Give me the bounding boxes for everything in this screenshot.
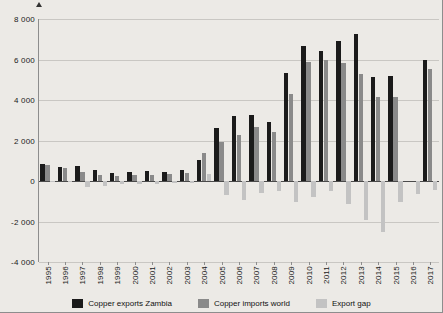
x-axis-tickmark (222, 262, 223, 265)
bar-export-gap (155, 181, 159, 184)
x-axis-tick-label: 2008 (270, 266, 279, 285)
bar-group (56, 19, 73, 262)
bar-copper-imports-world (115, 176, 119, 181)
bar-copper-exports-zambia (58, 167, 62, 181)
bar-group (230, 19, 247, 262)
x-axis-tick-label: 2005 (218, 266, 227, 285)
bar-copper-exports-zambia (162, 172, 166, 181)
bar-copper-exports-zambia (354, 34, 358, 181)
bar-copper-imports-world (376, 97, 380, 181)
x-axis-tickmark (82, 262, 83, 265)
bar-group (161, 19, 178, 262)
bar-group (196, 19, 213, 262)
bar-copper-exports-zambia (145, 171, 149, 181)
x-axis-tickmark (378, 262, 379, 265)
bar-export-gap (137, 181, 141, 184)
y-axis-tick-label: 8 000 (14, 15, 35, 24)
legend-swatch-icon (198, 299, 209, 308)
x-axis-tick-label: 2009 (287, 266, 296, 285)
x-axis-tick-label: 1998 (96, 266, 105, 285)
x-axis-tick-label: 2003 (183, 266, 192, 285)
bar-group (91, 19, 108, 262)
bar-export-gap (242, 181, 246, 200)
x-axis-tick-label: 2007 (252, 266, 261, 285)
legend-swatch-icon (72, 299, 83, 308)
legend-label: Copper imports world (214, 299, 290, 308)
bar-group (422, 19, 439, 262)
bar-copper-imports-world (80, 172, 84, 181)
bar-export-gap (259, 181, 263, 193)
legend-item[interactable]: Copper imports world (198, 299, 290, 308)
x-axis-tick-label: 2013 (357, 266, 366, 285)
bar-export-gap (346, 181, 350, 204)
x-axis-tickmark (152, 262, 153, 265)
bar-copper-imports-world (132, 175, 136, 181)
legend-item[interactable]: Export gap (316, 299, 371, 308)
bar-copper-exports-zambia (93, 170, 97, 181)
bar-copper-exports-zambia (180, 170, 184, 181)
bar-copper-exports-zambia (214, 128, 218, 181)
bar-export-gap (364, 181, 368, 220)
x-axis-tick-label: 2000 (131, 266, 140, 285)
bar-group (369, 19, 386, 262)
plot-area (39, 19, 439, 262)
bar-group (335, 19, 352, 262)
legend-label: Copper exports Zambia (88, 299, 172, 308)
bar-copper-exports-zambia (249, 115, 253, 181)
x-axis-tick-label: 2001 (148, 266, 157, 285)
bar-chart: 8 0006 0004 0002 0000-2 000-4 000 199519… (0, 0, 443, 313)
x-axis-tickmark (309, 262, 310, 265)
x-axis-tick-label: 2006 (235, 266, 244, 285)
bar-copper-exports-zambia (40, 164, 44, 181)
bar-copper-imports-world (306, 62, 310, 181)
x-axis-tickmark (100, 262, 101, 265)
bar-export-gap (329, 181, 333, 191)
legend-label: Export gap (332, 299, 371, 308)
bar-copper-exports-zambia (319, 51, 323, 181)
bar-copper-exports-zambia (75, 166, 79, 181)
x-axis-tickmark (413, 262, 414, 265)
bar-export-gap (294, 181, 298, 202)
x-axis-tickmark (326, 262, 327, 265)
y-axis-arrow-icon (36, 2, 42, 7)
bar-copper-exports-zambia (423, 60, 427, 181)
bar-copper-exports-zambia (284, 73, 288, 181)
x-axis-tick-label: 2017 (426, 266, 435, 285)
bar-export-gap (190, 181, 194, 183)
bar-copper-exports-zambia (388, 76, 392, 181)
bar-group (265, 19, 282, 262)
bar-copper-exports-zambia (232, 116, 236, 181)
x-axis-tick-label: 1996 (61, 266, 70, 285)
bar-copper-exports-zambia (127, 172, 131, 181)
legend-swatch-icon (316, 299, 327, 308)
bar-export-gap (224, 181, 228, 195)
bar-copper-imports-world (219, 142, 223, 181)
x-axis-tick-label: 1997 (78, 266, 87, 285)
bar-copper-exports-zambia (336, 41, 340, 181)
bar-export-gap (207, 174, 211, 181)
x-axis-tick-label: 1999 (113, 266, 122, 285)
bar-copper-exports-zambia (110, 173, 114, 181)
bar-export-gap (50, 181, 54, 182)
x-axis-tickmark (239, 262, 240, 265)
bar-group (109, 19, 126, 262)
legend-item[interactable]: Copper exports Zambia (72, 299, 172, 308)
bar-copper-imports-world (341, 63, 345, 181)
bar-copper-imports-world (272, 132, 276, 181)
bar-copper-imports-world (237, 135, 241, 181)
y-axis-tick-label: 0 (30, 177, 35, 186)
bar-export-gap (68, 181, 72, 182)
x-axis-tickmark (396, 262, 397, 265)
bar-group (352, 19, 369, 262)
bar-copper-exports-zambia (267, 122, 271, 181)
y-axis-tick-label: 6 000 (14, 55, 35, 64)
bar-group (282, 19, 299, 262)
bar-group (126, 19, 143, 262)
bar-export-gap (277, 181, 281, 191)
bar-copper-imports-world (254, 127, 258, 181)
bar-export-gap (398, 181, 402, 202)
bar-export-gap (120, 181, 124, 184)
bar-copper-imports-world (324, 60, 328, 181)
bar-group (300, 19, 317, 262)
bar-copper-exports-zambia (371, 77, 375, 181)
